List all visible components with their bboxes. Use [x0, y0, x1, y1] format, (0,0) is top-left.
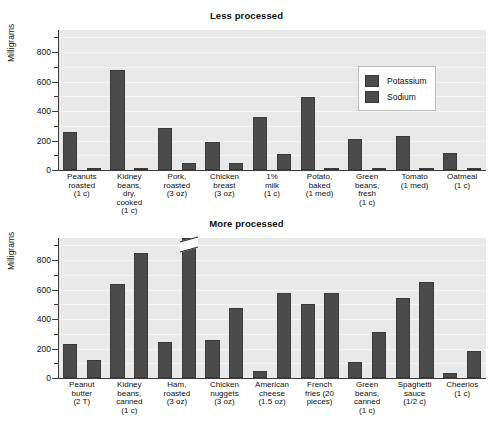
bar-series-bottom — [58, 238, 486, 378]
y-axis-line-bottom — [58, 238, 59, 378]
y-tick-minor — [54, 334, 58, 335]
x-tick-label: Ham, roasted (3 oz) — [150, 381, 204, 407]
bar-potassium — [205, 142, 219, 170]
legend-label-potassium: Potassium — [387, 76, 427, 86]
bar-group — [301, 238, 339, 378]
x-tick-label: Green beans, fresh (1 c) — [340, 173, 394, 207]
bar-sodium — [277, 154, 291, 170]
bar-group — [396, 238, 434, 378]
plot-area-top: 0200400600800 Potassium Sodium — [58, 30, 486, 170]
x-tick-label: Chicken breast (3 oz) — [198, 173, 252, 199]
x-tick-label: Spaghetti sauce (1/2 c) — [388, 381, 442, 407]
chart-panel-less-processed: Less processed Milligrams 0200400600800 … — [0, 0, 493, 214]
x-tick-label: Kidney beans, canned (1 c) — [103, 381, 157, 415]
x-tick-label: Pork, roasted (3 oz) — [150, 173, 204, 199]
y-tick-label: 600 — [21, 286, 51, 294]
x-tick-label: Tomato (1 med) — [388, 173, 442, 190]
bar-sodium — [182, 163, 196, 170]
y-tick-minor — [54, 275, 58, 276]
y-axis-label-bottom: Milligrams — [6, 232, 16, 270]
x-tick-label: Chicken nuggets (3 oz) — [198, 381, 252, 407]
x-tick-label: Green beans, canned (1 c) — [340, 381, 394, 415]
y-tick-major — [52, 82, 58, 83]
bar-group — [348, 238, 386, 378]
y-tick-major — [52, 111, 58, 112]
bar-group — [158, 238, 196, 378]
x-tick-label: Peanuts roasted (1 c) — [55, 173, 109, 199]
bar-potassium — [396, 136, 410, 170]
bar-group — [110, 238, 148, 378]
bar-potassium — [253, 117, 267, 170]
bar-potassium — [348, 139, 362, 170]
chart-panel-more-processed: More processed Milligrams 0200400600800 … — [0, 208, 493, 428]
legend-label-sodium: Sodium — [387, 92, 416, 102]
bar-potassium — [301, 97, 315, 170]
y-tick-label: 200 — [21, 137, 51, 145]
bar-group — [301, 30, 339, 170]
legend-item-sodium: Sodium — [365, 89, 427, 104]
plot-area-bottom: 0200400600800 — [58, 238, 486, 378]
bar-potassium — [301, 304, 315, 378]
x-tick-label: Peanut butter (2 T) — [55, 381, 109, 407]
bar-potassium — [63, 132, 77, 170]
bar-potassium — [396, 298, 410, 378]
legend: Potassium Sodium — [358, 66, 436, 111]
y-tick-minor — [54, 96, 58, 97]
y-tick-major — [52, 170, 58, 171]
y-tick-major — [52, 349, 58, 350]
legend-item-potassium: Potassium — [365, 73, 427, 88]
bar-sodium — [419, 282, 433, 378]
x-tick-label: Potato, baked (1 med) — [293, 173, 347, 199]
y-tick-label: 800 — [21, 256, 51, 264]
bar-sodium — [229, 308, 243, 378]
bar-potassium — [253, 371, 267, 378]
bar-potassium — [110, 70, 124, 170]
y-tick-label: 200 — [21, 345, 51, 353]
y-tick-major — [52, 319, 58, 320]
legend-swatch-sodium — [365, 91, 379, 103]
bar-sodium — [134, 253, 148, 378]
bar-potassium — [348, 362, 362, 378]
x-axis-line-top — [58, 170, 486, 171]
bar-group — [63, 30, 101, 170]
x-axis-labels-bottom: Peanut butter (2 T)Kidney beans, canned … — [58, 381, 486, 427]
chart-title-bottom: More processed — [0, 218, 493, 229]
bar-sodium — [87, 360, 101, 378]
y-tick-minor — [54, 67, 58, 68]
bar-group — [253, 238, 291, 378]
y-axis-label-top: Milligrams — [6, 24, 16, 62]
y-tick-minor — [54, 304, 58, 305]
y-tick-minor — [54, 363, 58, 364]
bar-sodium — [182, 238, 196, 378]
y-tick-major — [52, 290, 58, 291]
y-tick-minor — [54, 37, 58, 38]
bar-potassium — [110, 284, 124, 378]
y-tick-major — [52, 378, 58, 379]
y-tick-minor — [54, 245, 58, 246]
chart-title-top: Less processed — [0, 10, 493, 21]
y-tick-minor — [54, 155, 58, 156]
bar-potassium — [443, 153, 457, 170]
x-axis-line-bottom — [58, 378, 486, 379]
bar-group — [205, 238, 243, 378]
bar-group — [443, 30, 481, 170]
bar-potassium — [158, 128, 172, 170]
bar-potassium — [158, 342, 172, 378]
x-tick-label: French fries (20 pieces) — [293, 381, 347, 407]
x-tick-label: American cheese (1.5 oz) — [245, 381, 299, 407]
bar-potassium — [63, 344, 77, 378]
bar-group — [63, 238, 101, 378]
bar-group — [110, 30, 148, 170]
y-tick-minor — [54, 126, 58, 127]
bar-sodium — [229, 163, 243, 170]
y-tick-label: 600 — [21, 78, 51, 86]
y-tick-label: 400 — [21, 315, 51, 323]
bar-group — [205, 30, 243, 170]
bar-group — [443, 238, 481, 378]
y-tick-major — [52, 52, 58, 53]
figure-root: Less processed Milligrams 0200400600800 … — [0, 0, 493, 428]
bar-sodium — [277, 293, 291, 378]
x-tick-label: 1% milk (1 c) — [245, 173, 299, 199]
y-tick-label: 0 — [21, 374, 51, 382]
bar-group — [253, 30, 291, 170]
